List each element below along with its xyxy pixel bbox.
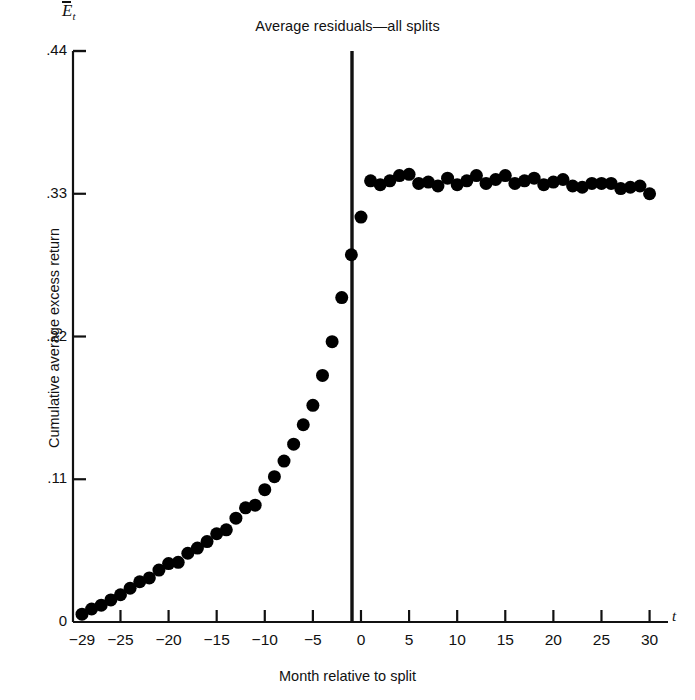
x-axis-ticks — [120, 610, 649, 622]
y-axis-tick-label: .22 — [21, 327, 67, 344]
data-point — [326, 335, 339, 348]
x-axis-tick-label: −15 — [195, 631, 239, 649]
data-point — [249, 499, 262, 512]
data-point — [316, 369, 329, 382]
data-point — [278, 455, 291, 468]
y-axis-tick-label: .33 — [21, 184, 67, 201]
x-axis-tick-label: −5 — [291, 631, 335, 649]
y-axis-tick-label: .11 — [21, 469, 67, 486]
x-axis-tick-label: 5 — [387, 631, 431, 649]
x-axis-tick-label: −25 — [98, 631, 142, 649]
data-point-group — [76, 168, 657, 621]
x-axis-tick-label: 15 — [483, 631, 527, 649]
x-axis-tick-label: 25 — [579, 631, 623, 649]
x-axis-tick-label: −20 — [147, 631, 191, 649]
data-point — [258, 483, 271, 496]
data-point — [354, 211, 367, 224]
x-axis-tick-label: 10 — [435, 631, 479, 649]
data-point — [335, 291, 348, 304]
x-axis-tick-label: −29 — [60, 631, 104, 649]
data-point — [287, 438, 300, 451]
data-point — [220, 523, 233, 536]
y-axis-ticks — [73, 51, 86, 479]
data-point — [297, 418, 310, 431]
x-axis-tick-label: 20 — [531, 631, 575, 649]
plot-area — [0, 0, 695, 700]
data-point — [643, 187, 656, 200]
x-axis-tick-label: 0 — [339, 631, 383, 649]
data-point — [268, 470, 281, 483]
x-axis-tick-label: −10 — [243, 631, 287, 649]
data-point — [172, 556, 185, 569]
data-point — [229, 512, 242, 525]
y-axis-tick-label: .44 — [21, 41, 67, 58]
data-point — [306, 399, 319, 412]
y-axis-tick-label: 0 — [21, 612, 67, 629]
data-point — [403, 168, 416, 181]
x-axis-tick-label: 30 — [628, 631, 672, 649]
data-point — [345, 248, 358, 261]
chart-figure: Average residuals—all splits Et Cumulati… — [0, 0, 695, 700]
